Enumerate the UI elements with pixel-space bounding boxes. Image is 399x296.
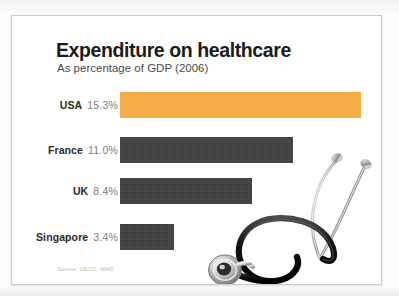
bar-value-label: 3.4% xyxy=(93,231,118,243)
photographed-page: Expenditure on healthcare As percentage … xyxy=(0,0,399,296)
bar-label: USA15.3% xyxy=(60,92,118,118)
bar-category-label: USA xyxy=(60,99,82,111)
bar-row: UK8.4% xyxy=(12,178,382,204)
bar-value-label: 8.4% xyxy=(93,185,118,197)
bar-chart-plot-area: USA15.3% France11.0% UK8.4% xyxy=(12,16,382,285)
source-note: Source: OECD, WHO xyxy=(57,266,114,272)
bar-row: France11.0% xyxy=(12,137,382,163)
bar-usa xyxy=(120,92,361,118)
bar-row: USA15.3% xyxy=(12,92,382,118)
bar-label: UK8.4% xyxy=(73,178,118,204)
scan-shade-bottom xyxy=(0,286,399,296)
bar-label: France11.0% xyxy=(48,137,118,163)
bar-category-label: Singapore xyxy=(36,231,88,243)
chart-slide: Expenditure on healthcare As percentage … xyxy=(11,15,382,285)
bar-label: Singapore3.4% xyxy=(36,224,118,250)
bar-value-label: 15.3% xyxy=(87,99,118,111)
bar-category-label: France xyxy=(48,144,83,156)
bar-row: Singapore3.4% xyxy=(12,224,382,250)
bar-category-label: UK xyxy=(73,185,88,197)
bar-value-label: 11.0% xyxy=(88,144,118,156)
scan-shade-top xyxy=(0,0,399,14)
bar-uk xyxy=(120,178,252,204)
bar-france xyxy=(120,137,293,163)
bar-singapore xyxy=(120,224,174,250)
